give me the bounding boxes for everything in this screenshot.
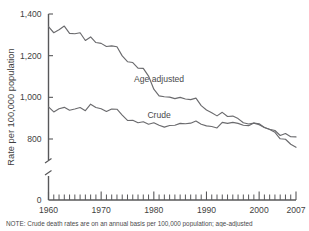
x-axis-tick-label: 1980 <box>144 205 163 215</box>
x-axis-tick-label: 1970 <box>92 205 111 215</box>
x-axis-tick-label: 1990 <box>197 205 216 215</box>
chart-figure: 8001,0001,2001,4000Rate per 100,000 popu… <box>0 0 309 231</box>
y-axis-tick-label: 1,200 <box>20 51 42 61</box>
y-axis-break-icon <box>45 159 52 176</box>
chart-note: NOTE: Crude death rates are on an annual… <box>6 220 306 227</box>
series-annotation-crude: Crude <box>147 110 171 120</box>
y-axis-zero-label: 0 <box>37 195 42 205</box>
series-line-crude <box>49 104 297 137</box>
series-line-age-adjusted <box>49 26 297 147</box>
y-axis-title: Rate per 100,000 population <box>6 48 16 165</box>
series-annotation-age-adjusted: Age adjusted <box>134 74 184 84</box>
y-axis-tick-label: 1,400 <box>20 9 42 19</box>
y-axis-tick-label: 800 <box>27 134 42 144</box>
death-rate-line-chart: 8001,0001,2001,4000Rate per 100,000 popu… <box>0 0 309 231</box>
y-axis-tick-label: 1,000 <box>20 92 42 102</box>
x-axis-tick-label: 2000 <box>250 205 269 215</box>
x-axis-tick-label: 2007 <box>286 205 305 215</box>
x-axis-tick-label: 1960 <box>39 205 58 215</box>
